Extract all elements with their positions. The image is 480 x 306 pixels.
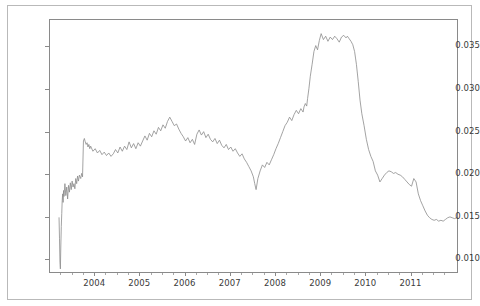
line-chart-svg xyxy=(50,20,459,274)
chart-screenshot: 0.0100.0150.0200.0250.0300.035 200420052… xyxy=(0,0,480,306)
data-series-line xyxy=(59,34,457,269)
plot-area xyxy=(49,19,458,273)
